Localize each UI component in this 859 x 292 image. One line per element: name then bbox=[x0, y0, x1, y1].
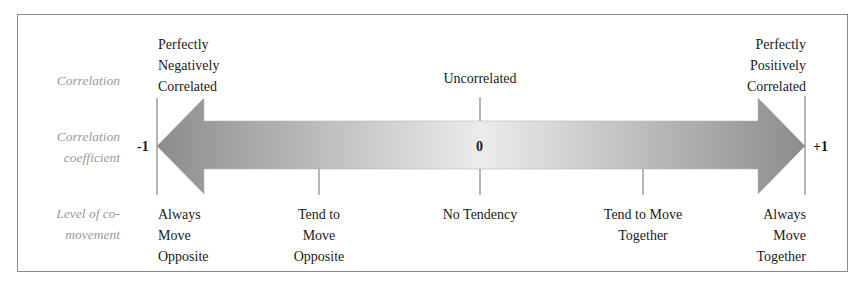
label-tend-to-move-opposite: Tend to Move Opposite bbox=[294, 204, 345, 267]
coefficient-mid: 0 bbox=[476, 139, 483, 155]
row-label-correlation-text: Correlation bbox=[57, 73, 120, 88]
label-line: Negatively bbox=[158, 55, 219, 76]
label-line: Move bbox=[294, 225, 345, 246]
label-line: Opposite bbox=[158, 246, 209, 267]
label-line: Together bbox=[604, 225, 682, 246]
label-always-move-opposite: Always Move Opposite bbox=[158, 204, 209, 267]
label-always-move-together: Always Move Together bbox=[756, 204, 806, 267]
label-uncorrelated: Uncorrelated bbox=[443, 68, 516, 89]
row-label-comovement-line1: Level of co- bbox=[20, 203, 120, 224]
label-line: Always bbox=[756, 204, 806, 225]
label-line: Tend to bbox=[294, 204, 345, 225]
row-label-coefficient-line1: Correlation bbox=[20, 126, 120, 147]
label-line: Tend to Move bbox=[604, 204, 682, 225]
label-line: Correlated bbox=[158, 76, 219, 97]
label-line: Perfectly bbox=[747, 34, 806, 55]
row-label-correlation: Correlation bbox=[20, 70, 120, 91]
label-line: Move bbox=[756, 225, 806, 246]
label-line: Always bbox=[158, 204, 209, 225]
label-line: Positively bbox=[747, 55, 806, 76]
label-line: Opposite bbox=[294, 246, 345, 267]
label-no-tendency: No Tendency bbox=[443, 204, 518, 225]
label-line: Correlated bbox=[747, 76, 806, 97]
label-line: Uncorrelated bbox=[443, 68, 516, 89]
coefficient-max: +1 bbox=[813, 139, 828, 155]
correlation-scale-graphic bbox=[0, 0, 859, 292]
label-perfectly-negatively-correlated: Perfectly Negatively Correlated bbox=[158, 34, 219, 97]
label-perfectly-positively-correlated: Perfectly Positively Correlated bbox=[747, 34, 806, 97]
row-label-comovement: Level of co- movement bbox=[20, 203, 120, 245]
label-line: Perfectly bbox=[158, 34, 219, 55]
label-line: Together bbox=[756, 246, 806, 267]
coefficient-min: -1 bbox=[137, 139, 149, 155]
row-label-coefficient: Correlation coefficient bbox=[20, 126, 120, 168]
label-line: No Tendency bbox=[443, 204, 518, 225]
row-label-coefficient-line2: coefficient bbox=[20, 147, 120, 168]
row-label-comovement-line2: movement bbox=[20, 224, 120, 245]
label-tend-to-move-together: Tend to Move Together bbox=[604, 204, 682, 246]
label-line: Move bbox=[158, 225, 209, 246]
